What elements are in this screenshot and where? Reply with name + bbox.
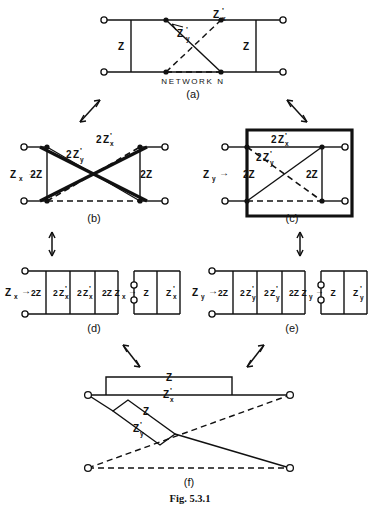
panel-d-right-terminal-bottom: [131, 297, 137, 303]
panel-b-label-2Z-left: 2Z: [30, 169, 42, 180]
svg-text:': ': [276, 284, 278, 293]
svg-text:x: x: [89, 293, 93, 300]
svg-text:y: y: [252, 294, 256, 302]
panel-b-terminal-tl: [21, 144, 27, 150]
panel-a-label-Z-right: Z: [243, 41, 249, 52]
panel-c-node-tr: [319, 144, 324, 149]
svg-text:→: →: [219, 167, 229, 178]
arrow-b-to-d: [49, 232, 55, 256]
svg-text:': ': [222, 6, 224, 15]
panel-a-node-tl: [163, 17, 168, 22]
svg-text:Z: Z: [192, 287, 198, 298]
panel-e-label-branch-1: 2Z: [218, 288, 228, 298]
panel-d-terminal-bottom: [22, 311, 28, 317]
svg-text:Z: Z: [177, 28, 183, 39]
panel-c-bold-enclosure: [247, 130, 352, 216]
svg-text:': ': [140, 420, 142, 429]
svg-text:2: 2: [66, 149, 72, 160]
panel-e-right-terminal-bottom: [318, 297, 324, 303]
svg-text:x: x: [285, 140, 289, 147]
panel-f: Z Z ' x Z Z ' y (f): [85, 372, 294, 488]
panel-b-node-br: [137, 198, 142, 203]
svg-text:Z: Z: [301, 288, 306, 298]
arrow-d-to-f: [123, 345, 140, 367]
svg-text:Z: Z: [10, 169, 16, 180]
panel-c-terminal-tr: [342, 144, 348, 150]
panel-f-terminal-tr: [287, 392, 294, 399]
panel-c-port-label: Z y →: [203, 167, 229, 183]
svg-text:Z: Z: [246, 288, 251, 298]
svg-text:2: 2: [240, 288, 245, 298]
panel-e-port-label: Z y →: [192, 285, 218, 301]
panel-f-caption: (f): [184, 476, 194, 488]
panel-a-terminal-br: [280, 69, 286, 75]
panel-d-right-label-1: Z: [143, 288, 148, 298]
panel-a-label-Zy-prime: Z ' y: [177, 25, 190, 43]
panel-d-left-network: Z x → 2Z 2 Z ' x 2 Z ' x 2Z: [5, 268, 118, 317]
svg-text:': ': [110, 131, 112, 140]
svg-text:2: 2: [53, 288, 58, 298]
panel-f-label-Z-diagonal: Z: [143, 406, 149, 417]
svg-text:x: x: [14, 293, 18, 300]
panel-e-label-branch-2: 2 Z ' y: [240, 284, 256, 302]
svg-text:x: x: [173, 293, 177, 300]
panel-d-label-branch-2: 2 Z ' x: [53, 284, 69, 300]
svg-text:Z: Z: [83, 288, 88, 298]
panel-f-diagonal-dashed: [88, 395, 290, 468]
panel-f-diagonal-seg1: [88, 395, 113, 411]
panel-b-node-tr: [137, 144, 142, 149]
arrow-e-to-f: [247, 345, 264, 367]
panel-f-terminal-bl: [85, 465, 92, 472]
svg-text:y: y: [309, 293, 313, 301]
svg-text:': ': [360, 284, 362, 293]
panel-c-label-2Zy-prime: 2 Z ' y: [256, 149, 274, 167]
svg-text:→: →: [128, 286, 137, 296]
svg-text:': ': [186, 25, 188, 34]
panel-d-port-label: Z x →: [5, 285, 31, 300]
svg-text:y: y: [140, 430, 144, 438]
panel-b-node-bl: [44, 198, 49, 203]
svg-text:Z: Z: [203, 169, 209, 180]
panel-c-label-2Zx-prime: 2 Z ' x: [271, 131, 289, 147]
panel-a-label-Z-left: Z: [118, 41, 124, 52]
panel-e-label-branch-4: 2Z: [289, 288, 299, 298]
figure-caption: Fig. 5.3.1: [170, 493, 211, 504]
panel-c-caption: (c): [286, 212, 299, 224]
panel-e-label-branch-3: 2 Z ' y: [264, 284, 280, 302]
panel-d-label-branch-3: 2 Z ' x: [77, 284, 93, 300]
svg-text:x: x: [65, 293, 69, 300]
panel-e-caption: (e): [285, 322, 298, 334]
panel-e-right-label-1: Z: [330, 288, 335, 298]
svg-text:': ': [89, 284, 91, 293]
panel-f-label-Z-bridge: Z: [166, 372, 172, 383]
svg-text:→: →: [208, 285, 218, 296]
arrow-a-to-c: [287, 100, 307, 122]
svg-text:Z: Z: [73, 149, 79, 160]
svg-text:→: →: [315, 286, 324, 296]
svg-text:': ': [80, 146, 82, 155]
svg-text:y: y: [212, 175, 216, 183]
panel-b-label-2Z-right: 2Z: [140, 169, 152, 180]
panel-c-node-br: [319, 198, 324, 203]
panel-c-node-bl: [244, 198, 249, 203]
svg-text:2: 2: [256, 152, 262, 163]
svg-text:x: x: [222, 15, 226, 22]
panel-e-left-network: Z y → 2Z 2 Z ' y 2 Z ' y 2Z: [192, 268, 305, 317]
svg-text:y: y: [270, 159, 274, 167]
arrow-a-to-b: [80, 100, 100, 122]
panel-d-caption: (d): [87, 322, 100, 334]
svg-text:y: y: [186, 35, 190, 43]
svg-text:Z: Z: [163, 389, 169, 400]
panel-c-label-2Z-left: 2Z: [243, 169, 255, 180]
panel-b-terminal-bl: [21, 198, 27, 204]
svg-text:2: 2: [96, 134, 102, 145]
svg-text:→: →: [21, 285, 31, 296]
arrow-c-to-e: [297, 232, 303, 256]
panel-d-terminal-top: [22, 268, 28, 274]
panel-c-terminal-bl: [222, 198, 228, 204]
figure-5-3-1: Z Z Z ' x Z ' y NETWORK N (a): [0, 0, 381, 509]
panel-b-label-2Zx-prime: 2 Z ' x: [96, 131, 114, 147]
svg-text:': ': [65, 284, 67, 293]
panel-f-terminal-tl: [85, 392, 92, 399]
panel-d-label-branch-4: 2Z: [102, 288, 112, 298]
